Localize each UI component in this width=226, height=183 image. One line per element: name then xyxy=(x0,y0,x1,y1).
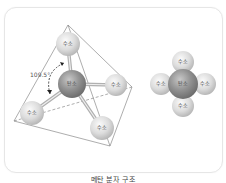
svg-text:수소: 수소 xyxy=(97,124,107,131)
svg-text:수소: 수소 xyxy=(156,80,166,87)
svg-text:탄소: 탄소 xyxy=(178,80,188,86)
methane-diagram: 109.5° 수소 수소 탄소 수소 수소 수소 수소 수소 xyxy=(0,0,226,183)
svg-text:수소: 수소 xyxy=(63,40,73,47)
figure-caption: 메탄 분자 구조 xyxy=(0,174,226,183)
svg-text:수소: 수소 xyxy=(178,58,188,65)
svg-text:수소: 수소 xyxy=(200,80,210,87)
bond-angle-arrow: 109.5° xyxy=(30,62,64,94)
atom-hydrogen-bottom-left: 수소 xyxy=(20,101,44,125)
svg-text:탄소: 탄소 xyxy=(67,80,77,86)
atom-hydrogen-top: 수소 xyxy=(56,32,80,56)
atom-carbon-center: 탄소 xyxy=(58,70,86,98)
space-filling-model: 수소 수소 수소 수소 탄소 xyxy=(150,51,216,117)
atom-hydrogen-bottom-right: 수소 xyxy=(90,116,114,140)
svg-text:수소: 수소 xyxy=(178,102,188,109)
atom-hydrogen-right: 수소 xyxy=(105,74,127,96)
svg-text:수소: 수소 xyxy=(27,109,37,116)
svg-text:수소: 수소 xyxy=(111,81,121,88)
bond-angle-label: 109.5° xyxy=(30,71,50,78)
sf-carbon-center: 탄소 xyxy=(168,69,198,99)
